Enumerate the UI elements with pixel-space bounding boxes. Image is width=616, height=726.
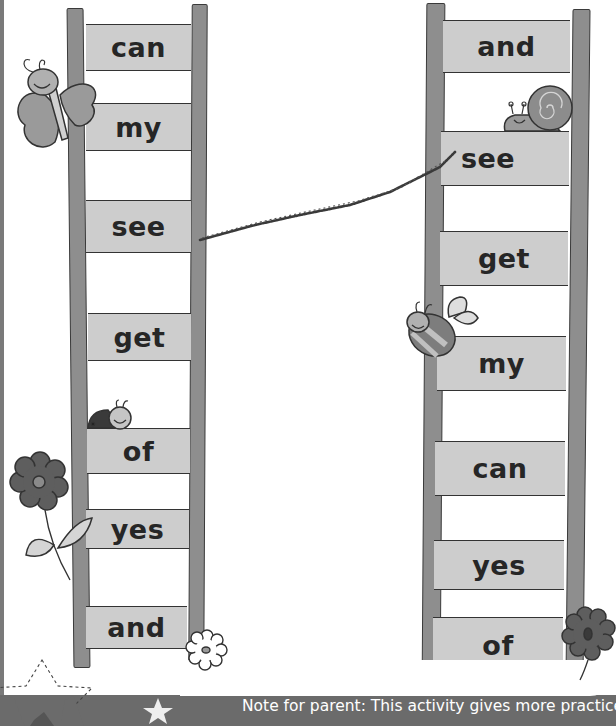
dark-flower-right-icon [562,607,615,680]
small-white-star-icon [143,698,173,724]
snail-icon [504,86,572,131]
drawn-match-line[interactable] [200,152,455,240]
decorations-layer [0,0,616,726]
white-flower-icon [186,630,227,670]
ladybird-icon [88,400,131,429]
dark-flower-left-icon [10,452,92,580]
bee-icon [401,297,478,364]
butterfly-icon [18,60,96,147]
dashed-star-outline-icon [0,660,92,726]
